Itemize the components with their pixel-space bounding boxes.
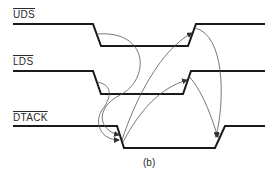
figure-caption: (b) [143,158,155,168]
timing-diagram [0,0,276,175]
arrow-uds-rise-to-dtack-rise [195,28,221,137]
lds-waveform [13,71,265,94]
arrow-lds-rise-to-dtack-rise [189,76,218,137]
dtack-waveform [13,126,265,148]
uds-waveform [13,24,265,46]
arrow-dtack-fall-to-uds-rise [122,33,192,140]
